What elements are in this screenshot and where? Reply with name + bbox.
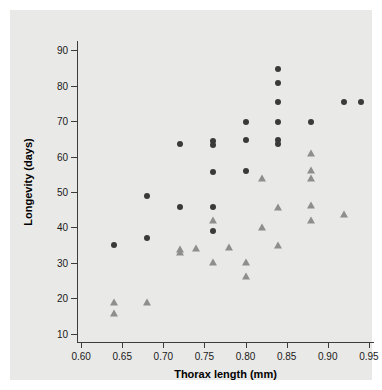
y-tick-label: 70: [44, 116, 68, 127]
x-tick-label: 0.65: [102, 351, 142, 362]
x-tick-label: 0.90: [308, 351, 348, 362]
x-tick-mark: [369, 343, 370, 348]
x-tick-mark: [122, 343, 123, 348]
data-point-circle: [144, 193, 150, 199]
data-point-circle: [308, 119, 314, 125]
data-point-circle: [210, 142, 216, 148]
x-tick-mark: [163, 343, 164, 348]
data-point-circle: [243, 137, 249, 143]
x-tick-mark: [81, 343, 82, 348]
data-point-circle: [177, 204, 183, 210]
data-point-triangle: [307, 217, 315, 224]
x-tick-mark: [246, 343, 247, 348]
data-point-triangle: [192, 244, 200, 251]
data-point-triangle: [209, 217, 217, 224]
y-tick-label: 60: [44, 151, 68, 162]
x-tick-label: 0.85: [267, 351, 307, 362]
y-tick-label: 50: [44, 187, 68, 198]
y-axis-title: Longevity (days): [22, 92, 34, 272]
data-point-triangle: [274, 203, 282, 210]
data-point-circle: [177, 141, 183, 147]
data-point-triangle: [110, 298, 118, 305]
y-tick-label: 90: [44, 45, 68, 56]
data-point-circle: [111, 242, 117, 248]
y-tick-label: 20: [44, 293, 68, 304]
data-point-triangle: [110, 309, 118, 316]
y-tick-label: 30: [44, 257, 68, 268]
data-point-circle: [275, 141, 281, 147]
data-point-triangle: [307, 167, 315, 174]
x-tick-label: 0.95: [349, 351, 382, 362]
data-point-triangle: [258, 174, 266, 181]
data-point-circle: [341, 99, 347, 105]
data-point-circle: [358, 99, 364, 105]
data-point-triangle: [258, 224, 266, 231]
x-tick-mark: [287, 343, 288, 348]
data-point-circle: [275, 66, 281, 72]
data-point-triangle: [176, 248, 184, 255]
data-point-circle: [210, 228, 216, 234]
y-tick-label: 10: [44, 328, 68, 339]
data-point-triangle: [307, 202, 315, 209]
data-point-triangle: [307, 174, 315, 181]
y-tick-label: 80: [44, 80, 68, 91]
plot-data-area: [77, 43, 373, 341]
data-point-circle: [243, 119, 249, 125]
y-tick-label: 40: [44, 222, 68, 233]
scatter-plot-figure: 102030405060708090 0.600.650.700.750.800…: [0, 0, 382, 390]
x-tick-label: 0.60: [61, 351, 101, 362]
x-tick-mark: [328, 343, 329, 348]
data-point-triangle: [242, 273, 250, 280]
data-point-triangle: [143, 298, 151, 305]
data-point-circle: [144, 235, 150, 241]
data-point-triangle: [340, 210, 348, 217]
data-point-circle: [275, 99, 281, 105]
data-point-circle: [243, 168, 249, 174]
data-point-circle: [210, 169, 216, 175]
data-point-triangle: [274, 241, 282, 248]
data-point-triangle: [242, 258, 250, 265]
data-point-triangle: [209, 258, 217, 265]
chart-panel: 102030405060708090 0.600.650.700.750.800…: [10, 10, 372, 380]
x-tick-label: 0.80: [226, 351, 266, 362]
data-point-circle: [275, 119, 281, 125]
data-point-circle: [275, 80, 281, 86]
x-tick-label: 0.75: [184, 351, 224, 362]
data-point-circle: [210, 204, 216, 210]
x-axis-title: Thorax length (mm): [77, 368, 374, 380]
data-point-triangle: [225, 244, 233, 251]
x-tick-mark: [204, 343, 205, 348]
data-point-triangle: [307, 149, 315, 156]
x-tick-label: 0.70: [143, 351, 183, 362]
